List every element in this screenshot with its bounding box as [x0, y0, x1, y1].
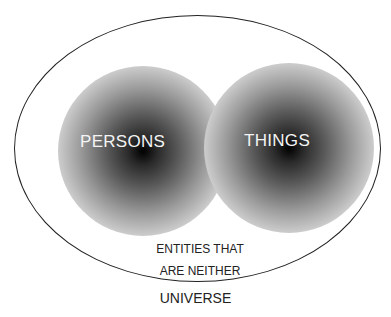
neither-label: ENTITIES THAT ARE NEITHER	[140, 238, 260, 282]
things-label: THINGS	[244, 131, 310, 151]
persons-label: PERSONS	[80, 132, 165, 152]
neither-label-line2: ARE NEITHER	[140, 260, 260, 282]
universe-label: UNIVERSE	[0, 290, 391, 306]
neither-label-line1: ENTITIES THAT	[140, 238, 260, 260]
